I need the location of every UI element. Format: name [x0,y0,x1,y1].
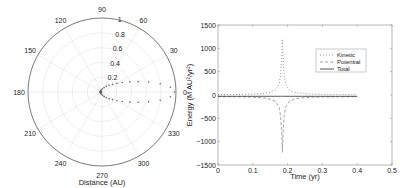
orbit-point [174,91,176,93]
orbit-point [106,86,108,88]
y-tick-label: −1500 [196,162,216,169]
angle-tick-label: 180 [13,89,25,96]
series-line-potential [218,97,357,153]
radial-tick-label: 1 [118,16,122,23]
energy-plot: 00.10.20.30.40.5−1500−1000−5000500100015… [185,22,397,182]
angle-tick-label: 90 [98,6,106,13]
orbit-point [108,98,110,100]
orbit-point [121,82,123,84]
angle-tick-label: 150 [24,47,36,54]
polar-spoke [38,92,102,129]
y-tick-label: 500 [204,68,216,75]
orbit-point [121,101,123,103]
orbit-point [103,87,105,89]
polar-grid [28,18,176,166]
orbit-point [108,85,110,87]
x-tick-label: 0 [216,167,220,174]
angle-tick-label: 30 [170,47,178,54]
orbit-point [103,96,105,98]
orbit-point [112,99,114,101]
angle-tick-label: 120 [55,17,67,24]
radial-tick-label: 0.6 [113,45,123,52]
figure: 03060901201501802102402703003300.20.40.6… [0,0,418,188]
legend: KineticPotentialTotal [316,49,366,72]
orbit-point [148,81,150,83]
orbit-point [116,100,118,102]
orbit-point [137,81,139,83]
plot-area [218,25,392,165]
orbit-point [159,99,161,101]
legend-label-potential: Potential [337,59,360,65]
polar-spoke [65,28,102,92]
polar-xlabel: Distance (AU) [79,178,126,187]
orbit-point [129,101,131,103]
orbit-point [137,102,139,104]
x-tick-label: 0.5 [387,167,397,174]
angle-tick-label: 330 [168,130,180,137]
x-axis-label: Time (yr) [290,172,320,181]
angle-tick-label: 240 [55,160,67,167]
radial-tick-label: 0.2 [108,74,118,81]
radial-tick-label: 0.4 [110,60,120,67]
x-tick-label: 0.4 [352,167,362,174]
polar-plot: 03060901201501802102402703003300.20.40.6… [13,6,187,188]
angle-tick-label: 60 [140,17,148,24]
radial-tick-label: 0.8 [115,31,125,38]
polar-spoke [102,92,139,156]
orbit-point [112,84,114,86]
angle-tick-label: 300 [138,160,150,167]
legend-label-kinetic: Kinetic [337,52,355,58]
orbit-point [106,97,108,99]
axis-ticks: 00.10.20.30.40.5−1500−1000−5000500100015… [196,22,397,175]
orbit-point [170,96,172,98]
y-tick-label: 1000 [200,45,216,52]
legend-label-total: Total [337,66,350,72]
y-tick-label: −1000 [196,138,216,145]
orbit-point [159,83,161,85]
polar-spoke [38,55,102,92]
x-tick-label: 0.1 [248,167,258,174]
orbit-point [129,81,131,83]
polar-spoke [65,92,102,156]
y-tick-label: 0 [212,92,216,99]
orbit-point [101,94,103,96]
polar-spoke [102,92,166,129]
y-axis-label: Energy (M AU²/yr²) [185,63,194,126]
orbit-point [170,86,172,88]
y-tick-label: 1500 [200,22,216,29]
angle-tick-label: 210 [24,130,36,137]
y-tick-label: −500 [200,115,216,122]
orbit-point [100,92,102,94]
orbit-point [116,83,118,85]
orbit-point [148,101,150,103]
